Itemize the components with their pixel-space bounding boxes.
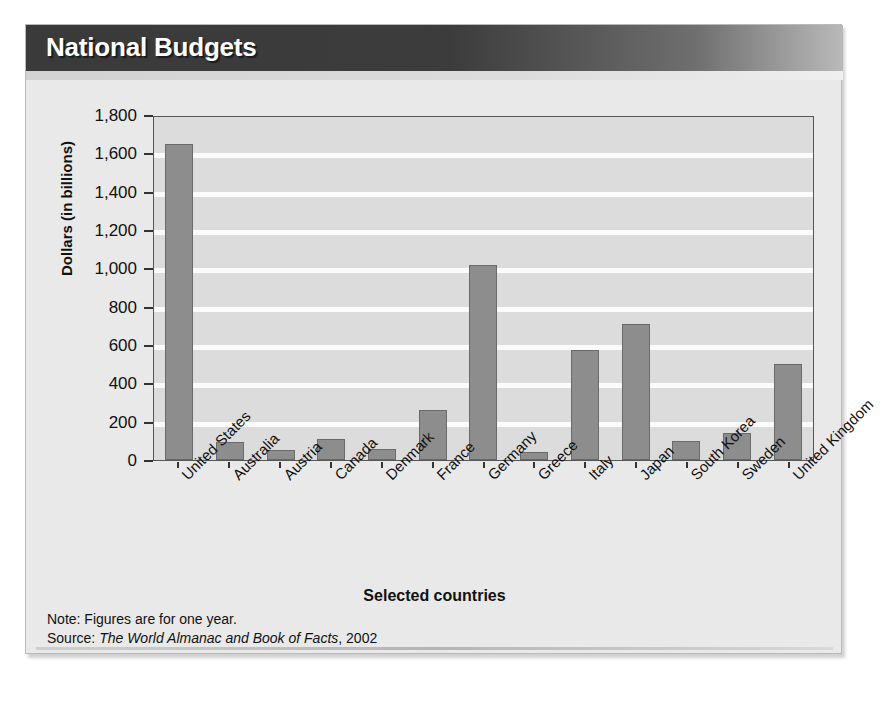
bar — [622, 324, 650, 460]
bar-slot — [255, 117, 306, 460]
y-tick-mark — [144, 383, 153, 385]
bar-slot — [560, 117, 611, 460]
plot-area — [153, 116, 814, 461]
source-row: Source: The World Almanac and Book of Fa… — [47, 629, 377, 648]
chart-title-bar: National Budgets — [26, 25, 843, 71]
y-tick-label: 600 — [109, 336, 137, 356]
y-tick-label: 200 — [109, 413, 137, 433]
y-tick-mark — [144, 192, 153, 194]
bar — [469, 265, 497, 461]
y-tick-mark — [144, 307, 153, 309]
bar-slot — [610, 117, 661, 460]
bar-slot — [306, 117, 357, 460]
bar-slot — [458, 117, 509, 460]
x-tick-mark — [330, 462, 332, 468]
y-tick-label: 1,200 — [94, 221, 137, 241]
bar — [672, 441, 700, 460]
bar-slot — [712, 117, 763, 460]
x-tick-mark — [788, 462, 790, 468]
bar-slot — [762, 117, 813, 460]
x-tick-mark — [533, 462, 535, 468]
title-underline — [26, 71, 843, 80]
x-tick-mark — [381, 462, 383, 468]
source-year: , 2002 — [338, 630, 377, 646]
source-title: The World Almanac and Book of Facts — [99, 630, 338, 646]
x-tick-mark — [177, 462, 179, 468]
x-tick-mark — [432, 462, 434, 468]
chart-title: National Budgets — [46, 32, 257, 63]
footnotes: Note: Figures are for one year. Source: … — [47, 610, 377, 648]
x-tick-mark — [228, 462, 230, 468]
y-tick-mark — [144, 422, 153, 424]
y-tick-label: 1,400 — [94, 183, 137, 203]
y-tick-mark — [144, 115, 153, 117]
bottom-rule — [36, 647, 833, 650]
source-label: Source: — [47, 630, 95, 646]
y-tick-label: 0 — [128, 451, 137, 471]
y-tick-label: 1,600 — [94, 144, 137, 164]
bar-slot — [205, 117, 256, 460]
y-tick-mark — [144, 153, 153, 155]
bar-slot — [407, 117, 458, 460]
note-text: Figures are for one year. — [84, 611, 237, 627]
y-tick-label: 1,800 — [94, 106, 137, 126]
y-tick-label: 400 — [109, 374, 137, 394]
y-tick-mark — [144, 345, 153, 347]
x-tick-mark — [737, 462, 739, 468]
bar-slot — [509, 117, 560, 460]
y-tick-mark — [144, 230, 153, 232]
bar-slot — [661, 117, 712, 460]
note-row: Note: Figures are for one year. — [47, 610, 377, 629]
note-label: Note: — [47, 611, 80, 627]
bar-series — [154, 117, 813, 460]
y-tick-mark — [144, 268, 153, 270]
x-tick-mark — [279, 462, 281, 468]
x-tick-mark — [635, 462, 637, 468]
bar-slot — [154, 117, 205, 460]
y-tick-label: 1,000 — [94, 259, 137, 279]
x-tick-mark — [584, 462, 586, 468]
x-axis-ticks: United StatesAustraliaAustriaCanadaDenma… — [153, 462, 814, 582]
chart-figure: National Budgets Dollars (in billions) 0… — [25, 24, 842, 654]
y-tick-mark — [144, 460, 153, 462]
x-tick-mark — [686, 462, 688, 468]
y-axis-ticks: 02004006008001,0001,2001,4001,6001,800 — [26, 116, 153, 461]
x-axis-label: Selected countries — [26, 587, 843, 605]
x-tick-mark — [483, 462, 485, 468]
y-tick-label: 800 — [109, 298, 137, 318]
bar — [165, 144, 193, 460]
bar-slot — [357, 117, 408, 460]
